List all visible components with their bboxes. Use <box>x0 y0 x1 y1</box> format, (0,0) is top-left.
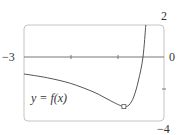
plot-area <box>0 0 182 135</box>
function-label: y = f(x) <box>31 91 67 106</box>
viewing-window-frame <box>24 25 164 121</box>
x-min-label: −3 <box>2 51 15 63</box>
y-max-label: 2 <box>161 10 167 22</box>
x-max-label: 0 <box>169 51 175 63</box>
y-min-label: −4 <box>157 123 170 135</box>
minimum-point-marker <box>122 105 126 109</box>
